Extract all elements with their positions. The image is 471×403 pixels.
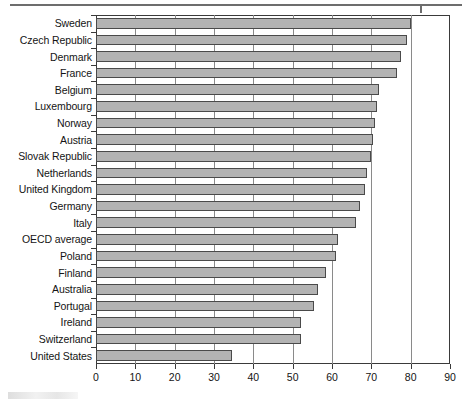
bar-row[interactable]: Slovak Republic xyxy=(0,148,471,165)
y-axis-tick xyxy=(91,181,96,182)
category-label: Czech Republic xyxy=(20,34,92,46)
category-label: Austria xyxy=(60,134,92,146)
y-axis-tick xyxy=(91,314,96,315)
category-label: Norway xyxy=(57,117,92,129)
bar-row[interactable]: Ireland xyxy=(0,314,471,331)
bar[interactable] xyxy=(96,284,318,295)
category-label: Poland xyxy=(60,250,92,262)
bar[interactable] xyxy=(96,234,338,245)
bar-row[interactable]: Finland xyxy=(0,264,471,281)
bar[interactable] xyxy=(96,217,356,228)
bar[interactable] xyxy=(96,51,401,62)
category-label: United States xyxy=(30,350,92,362)
category-label: Denmark xyxy=(50,51,92,63)
y-axis-tick xyxy=(91,148,96,149)
x-axis-tick-label: 20 xyxy=(155,371,195,384)
category-label: Ireland xyxy=(61,316,92,328)
bar-row[interactable]: Norway xyxy=(0,115,471,132)
bar[interactable] xyxy=(96,18,411,29)
bar-row[interactable]: Poland xyxy=(0,248,471,265)
category-label: Germany xyxy=(50,200,92,212)
y-axis-tick xyxy=(91,281,96,282)
y-axis-tick xyxy=(91,81,96,82)
x-axis-tick-label: 90 xyxy=(430,371,470,384)
category-label: Switzerland xyxy=(39,333,92,345)
bar-row[interactable]: France xyxy=(0,65,471,82)
category-label: Luxembourg xyxy=(35,100,92,112)
x-axis-tick xyxy=(175,364,176,369)
x-axis-tick-label: 60 xyxy=(312,371,352,384)
bar[interactable] xyxy=(96,334,301,345)
category-label: United Kingdom xyxy=(19,183,92,195)
x-axis-tick-label: 10 xyxy=(115,371,155,384)
bar-row[interactable]: Italy xyxy=(0,214,471,231)
bar[interactable] xyxy=(96,251,336,262)
x-axis-tick xyxy=(96,364,97,369)
y-axis-tick xyxy=(91,65,96,66)
bar-row[interactable]: United States xyxy=(0,347,471,364)
x-axis-tick xyxy=(135,364,136,369)
bar[interactable] xyxy=(96,317,301,328)
bar-row[interactable]: Portugal xyxy=(0,298,471,315)
y-axis-tick xyxy=(91,298,96,299)
category-label: Portugal xyxy=(54,300,92,312)
bar[interactable] xyxy=(96,118,375,129)
x-axis: 0102030405060708090 xyxy=(0,364,471,394)
category-label: Netherlands xyxy=(36,167,92,179)
y-axis-tick xyxy=(91,347,96,348)
bar-row[interactable]: Switzerland xyxy=(0,331,471,348)
bar[interactable] xyxy=(96,301,314,312)
y-axis-tick xyxy=(91,331,96,332)
x-axis-tick-label: 30 xyxy=(194,371,234,384)
y-axis-tick xyxy=(91,214,96,215)
bar[interactable] xyxy=(96,35,407,46)
bar[interactable] xyxy=(96,134,373,145)
x-axis-tick-label: 70 xyxy=(351,371,391,384)
y-axis-tick xyxy=(91,198,96,199)
x-axis-tick xyxy=(371,364,372,369)
category-label: Australia xyxy=(52,283,92,295)
x-axis-tick xyxy=(214,364,215,369)
bar-row[interactable]: Denmark xyxy=(0,48,471,65)
bar-row[interactable]: Netherlands xyxy=(0,165,471,182)
x-axis-tick-label: 0 xyxy=(76,371,116,384)
category-label: Slovak Republic xyxy=(18,150,92,162)
x-axis-tick xyxy=(411,364,412,369)
x-axis-tick xyxy=(332,364,333,369)
category-label: Italy xyxy=(73,217,92,229)
bar[interactable] xyxy=(96,68,397,79)
bar-row[interactable]: Austria xyxy=(0,131,471,148)
y-axis-tick xyxy=(91,165,96,166)
bar-row[interactable]: OECD average xyxy=(0,231,471,248)
bar-row[interactable]: Australia xyxy=(0,281,471,298)
y-axis-tick xyxy=(91,248,96,249)
x-axis-tick xyxy=(450,364,451,369)
bar[interactable] xyxy=(96,151,371,162)
bar[interactable] xyxy=(96,201,360,212)
bar-row[interactable]: United Kingdom xyxy=(0,181,471,198)
bar-row[interactable]: Luxembourg xyxy=(0,98,471,115)
bar[interactable] xyxy=(96,267,326,278)
bar-row[interactable]: Germany xyxy=(0,198,471,215)
top-rule-tick xyxy=(420,4,422,13)
x-axis-tick-label: 80 xyxy=(391,371,431,384)
bar[interactable] xyxy=(96,168,367,179)
bar-rows: SwedenCzech RepublicDenmarkFranceBelgium… xyxy=(0,15,471,364)
x-axis-tick xyxy=(253,364,254,369)
y-axis-tick xyxy=(91,115,96,116)
bar[interactable] xyxy=(96,84,379,95)
y-axis-tick xyxy=(91,264,96,265)
bar[interactable] xyxy=(96,184,365,195)
horizontal-bar-chart: SwedenCzech RepublicDenmarkFranceBelgium… xyxy=(0,0,471,403)
category-label: France xyxy=(60,67,92,79)
x-axis-tick-label: 40 xyxy=(233,371,273,384)
bar-row[interactable]: Belgium xyxy=(0,81,471,98)
category-label: Finland xyxy=(58,267,92,279)
bar[interactable] xyxy=(96,101,377,112)
bar-row[interactable]: Czech Republic xyxy=(0,32,471,49)
bar-row[interactable]: Sweden xyxy=(0,15,471,32)
y-axis-tick xyxy=(91,231,96,232)
y-axis-tick xyxy=(91,15,96,16)
bar[interactable] xyxy=(96,350,232,361)
category-label: Sweden xyxy=(55,17,92,29)
